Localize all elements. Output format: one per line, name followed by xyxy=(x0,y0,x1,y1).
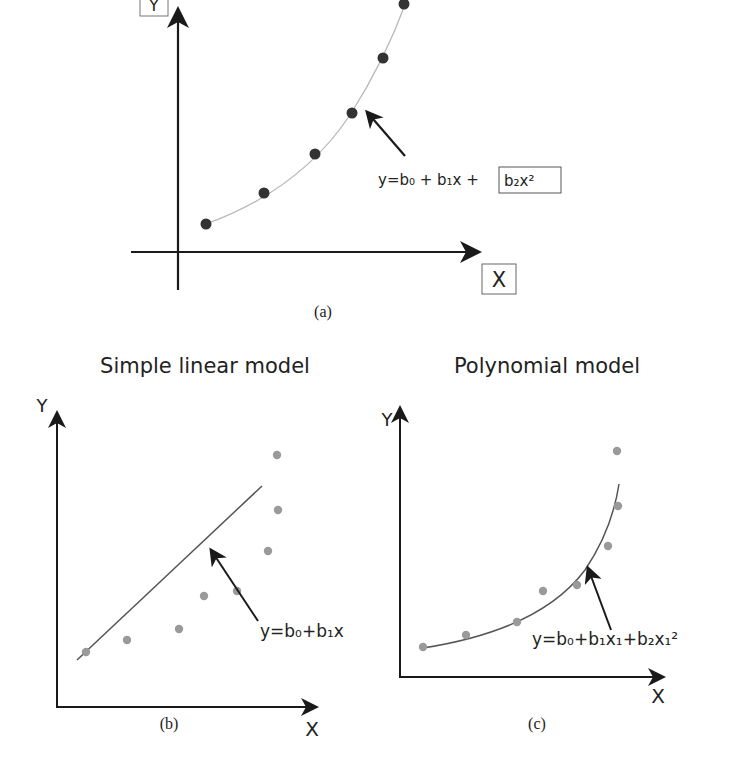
caption-b: (b) xyxy=(160,715,179,733)
quadratic-curve xyxy=(206,2,406,224)
data-points-b xyxy=(82,451,282,656)
y-label-box: Y xyxy=(140,0,168,16)
title-c: Polynomial model xyxy=(454,354,640,378)
boxed-term-text: b₂x² xyxy=(504,172,534,190)
fit-curve xyxy=(423,484,619,648)
x-label: X xyxy=(492,268,506,292)
x-label-box: X xyxy=(482,264,516,294)
fit-line xyxy=(77,486,262,660)
title-b: Simple linear model xyxy=(100,354,310,378)
caption-c: (c) xyxy=(528,715,546,733)
y-label: Y xyxy=(148,0,159,15)
equation-c: y=b₀+b₁x₁+b₂x₁² xyxy=(532,629,678,649)
x-label-b: X xyxy=(305,717,319,741)
panel-a: Y X y=b₀ + b₁x + b₂x² (a) xyxy=(131,0,561,321)
equation-b: y=b₀+b₁x xyxy=(260,621,344,641)
equation-a: y=b₀ + b₁x + xyxy=(378,171,479,189)
y-label-b: Y xyxy=(36,395,49,416)
boxed-term: b₂x² xyxy=(499,167,561,193)
y-label-c: Y xyxy=(381,409,394,430)
x-label-c: X xyxy=(651,684,665,708)
data-points-c xyxy=(419,447,622,651)
pointer-arrow xyxy=(367,112,405,156)
data-points xyxy=(201,0,410,230)
caption-a: (a) xyxy=(314,303,332,321)
panel-b: Simple linear model Y X y=b₀+b₁x (b) xyxy=(36,354,344,741)
regression-models-diagram: Y X y=b₀ + b₁x + b₂x² (a) xyxy=(0,0,741,772)
panel-c: Polynomial model Y X y=b₀+b₁x₁+b₂x₁² (c) xyxy=(381,354,679,733)
pointer-arrow-c xyxy=(588,568,611,630)
pointer-arrow-b xyxy=(211,550,258,621)
